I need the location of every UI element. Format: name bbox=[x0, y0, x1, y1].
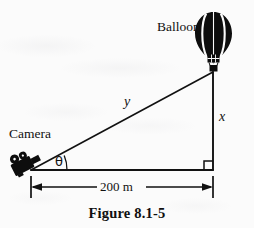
hot-air-balloon-icon bbox=[195, 12, 232, 72]
right-angle-marker-icon bbox=[204, 161, 213, 170]
camera-label: Camera bbox=[9, 127, 51, 141]
angle-label: θ bbox=[55, 155, 63, 168]
hypotenuse-label: y bbox=[124, 95, 130, 109]
balloon-basket bbox=[210, 65, 218, 72]
angle-arc bbox=[64, 156, 67, 170]
balloon-label: Balloon bbox=[157, 20, 200, 34]
figure-caption: Figure 8.1-5 bbox=[0, 205, 254, 222]
arrow-right-icon bbox=[202, 183, 213, 191]
arrow-left-icon bbox=[31, 183, 42, 191]
figure-container: Balloon Camera y x θ 200 m Figure 8.1-5 bbox=[0, 0, 254, 228]
base-dimension-label: 200 m bbox=[97, 180, 136, 193]
movie-camera-icon bbox=[7, 145, 44, 179]
vertical-side-label: x bbox=[219, 110, 225, 124]
